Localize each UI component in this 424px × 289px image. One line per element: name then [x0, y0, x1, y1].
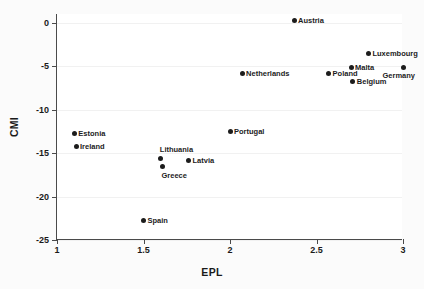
data-point-label: Germany: [382, 72, 415, 80]
data-point-label: Spain: [148, 217, 168, 225]
y-tick-label: -5: [41, 62, 49, 71]
data-point-marker: [72, 131, 77, 136]
x-tick: [144, 239, 145, 244]
data-point-marker: [158, 156, 163, 161]
data-point-label: Greece: [162, 172, 187, 180]
data-point-label: Portugal: [234, 128, 264, 136]
data-point-label: Netherlands: [246, 70, 289, 78]
y-tick: -5: [52, 66, 57, 67]
y-tick: -10: [52, 110, 57, 111]
data-point-marker: [326, 71, 331, 76]
x-axis-title: EPL: [0, 266, 424, 278]
y-tick-label: -25: [36, 236, 49, 245]
data-point-label: Lithuania: [160, 146, 193, 154]
data-point-marker: [228, 129, 233, 134]
x-tick-label: 1.5: [137, 246, 150, 255]
data-point-label: Ireland: [80, 143, 105, 151]
gridline: [57, 153, 402, 154]
gridline: [57, 197, 402, 198]
data-point-marker: [74, 144, 79, 149]
data-point-label: Luxembourg: [372, 50, 417, 58]
y-tick-label: -15: [36, 149, 49, 158]
data-point-marker: [186, 158, 191, 163]
data-point-label: Latvia: [192, 157, 214, 165]
scatter-plot-figure: 0-5-10-15-20-25 11.522.53 AustriaLuxembo…: [0, 0, 424, 289]
data-point-marker: [350, 79, 355, 84]
gridline: [57, 110, 402, 111]
data-point-marker: [292, 18, 297, 23]
data-point-label: Estonia: [78, 130, 105, 138]
y-tick: -20: [52, 197, 57, 198]
data-point-marker: [401, 65, 406, 70]
plot-area: 0-5-10-15-20-25 11.522.53 AustriaLuxembo…: [56, 14, 402, 240]
data-point-marker: [141, 218, 146, 223]
data-point-marker: [366, 51, 371, 56]
x-tick-label: 2: [227, 246, 232, 255]
y-axis-title: CMI: [8, 117, 20, 137]
x-tick: [317, 239, 318, 244]
y-tick-label: 0: [44, 18, 49, 27]
x-tick: [230, 239, 231, 244]
data-point-marker: [160, 164, 165, 169]
x-tick: [403, 239, 404, 244]
data-point-marker: [240, 71, 245, 76]
data-point-label: Austria: [298, 17, 324, 25]
x-tick-label: 1: [54, 246, 59, 255]
x-tick: [57, 239, 58, 244]
data-point-label: Poland: [333, 70, 358, 78]
x-tick-label: 3: [400, 246, 405, 255]
y-tick-label: -10: [36, 105, 49, 114]
data-point-label: Belgium: [357, 78, 387, 86]
y-tick: -15: [52, 153, 57, 154]
y-tick-label: -20: [36, 192, 49, 201]
x-tick-label: 2.5: [310, 246, 323, 255]
gridline: [57, 23, 402, 24]
y-tick: 0: [52, 23, 57, 24]
